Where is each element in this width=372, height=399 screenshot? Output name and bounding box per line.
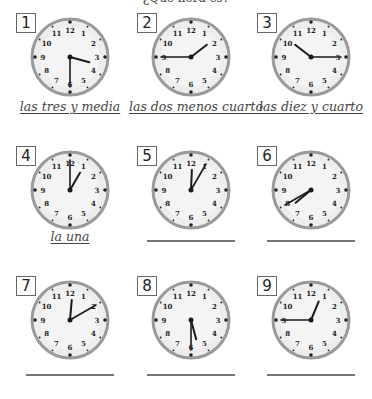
svg-text:10: 10 xyxy=(42,39,52,48)
svg-text:4: 4 xyxy=(332,66,337,75)
svg-text:2: 2 xyxy=(91,39,96,48)
svg-text:1: 1 xyxy=(81,162,86,171)
svg-text:4: 4 xyxy=(332,199,337,208)
svg-text:2: 2 xyxy=(212,302,217,311)
svg-text:2: 2 xyxy=(91,172,96,181)
svg-text:12: 12 xyxy=(65,289,75,298)
answer-text: la una xyxy=(8,229,132,244)
svg-text:10: 10 xyxy=(163,302,173,311)
svg-text:7: 7 xyxy=(295,209,300,218)
svg-text:12: 12 xyxy=(306,289,316,298)
answer-blank-line[interactable] xyxy=(147,240,235,242)
svg-text:8: 8 xyxy=(285,329,290,338)
svg-text:9: 9 xyxy=(41,316,46,325)
svg-text:6: 6 xyxy=(68,343,73,352)
svg-text:11: 11 xyxy=(52,162,62,171)
svg-text:3: 3 xyxy=(95,316,100,325)
svg-text:6: 6 xyxy=(309,343,314,352)
svg-text:10: 10 xyxy=(283,172,293,181)
clock-face-icon: 121234567891011 xyxy=(150,279,232,361)
svg-text:4: 4 xyxy=(212,199,217,208)
svg-text:8: 8 xyxy=(44,199,49,208)
clock-face-icon: 121234567891011 xyxy=(150,149,232,231)
svg-text:12: 12 xyxy=(65,26,75,35)
svg-text:4: 4 xyxy=(91,66,96,75)
worksheet-title: ¿Qué hora es? xyxy=(0,0,372,5)
svg-text:10: 10 xyxy=(283,39,293,48)
svg-text:7: 7 xyxy=(54,209,59,218)
svg-text:10: 10 xyxy=(42,172,52,181)
svg-text:9: 9 xyxy=(162,186,167,195)
svg-text:5: 5 xyxy=(202,339,207,348)
svg-text:10: 10 xyxy=(42,302,52,311)
svg-text:12: 12 xyxy=(306,26,316,35)
svg-text:5: 5 xyxy=(81,339,86,348)
svg-text:8: 8 xyxy=(165,66,170,75)
svg-text:11: 11 xyxy=(293,162,303,171)
svg-text:7: 7 xyxy=(175,76,180,85)
svg-text:5: 5 xyxy=(322,339,327,348)
svg-text:7: 7 xyxy=(175,339,180,348)
answer-blank-line[interactable] xyxy=(267,374,355,376)
answer-text: las diez y cuarto xyxy=(249,99,372,114)
svg-text:7: 7 xyxy=(295,76,300,85)
svg-text:7: 7 xyxy=(175,209,180,218)
svg-text:7: 7 xyxy=(54,339,59,348)
svg-text:1: 1 xyxy=(81,292,86,301)
svg-text:9: 9 xyxy=(41,186,46,195)
svg-text:12: 12 xyxy=(186,289,196,298)
svg-text:4: 4 xyxy=(212,329,217,338)
svg-text:10: 10 xyxy=(163,39,173,48)
svg-text:4: 4 xyxy=(212,66,217,75)
svg-text:9: 9 xyxy=(41,53,46,62)
svg-text:6: 6 xyxy=(309,213,314,222)
answer-blank-line[interactable] xyxy=(267,240,355,242)
svg-text:3: 3 xyxy=(336,186,341,195)
svg-text:1: 1 xyxy=(202,29,207,38)
svg-text:1: 1 xyxy=(81,29,86,38)
svg-text:3: 3 xyxy=(216,53,221,62)
clock-face-icon: 121234567891011 xyxy=(270,279,352,361)
answer-text: las tres y media xyxy=(8,99,132,114)
svg-text:8: 8 xyxy=(165,199,170,208)
svg-text:10: 10 xyxy=(283,302,293,311)
answer-text: las dos menos cuarto xyxy=(129,99,253,114)
svg-text:6: 6 xyxy=(68,213,73,222)
svg-text:5: 5 xyxy=(81,209,86,218)
svg-text:12: 12 xyxy=(186,159,196,168)
svg-text:12: 12 xyxy=(186,26,196,35)
svg-text:10: 10 xyxy=(163,172,173,181)
svg-text:3: 3 xyxy=(95,53,100,62)
svg-text:11: 11 xyxy=(52,29,62,38)
clock-face-icon: 121234567891011 xyxy=(29,16,111,98)
svg-text:2: 2 xyxy=(212,172,217,181)
svg-text:6: 6 xyxy=(309,80,314,89)
clock-face-icon: 121234567891011 xyxy=(270,149,352,231)
svg-text:11: 11 xyxy=(293,292,303,301)
svg-text:2: 2 xyxy=(332,39,337,48)
svg-text:5: 5 xyxy=(202,76,207,85)
svg-text:2: 2 xyxy=(212,39,217,48)
svg-text:1: 1 xyxy=(322,162,327,171)
clock-face-icon: 121234567891011 xyxy=(150,16,232,98)
svg-text:8: 8 xyxy=(44,66,49,75)
svg-text:2: 2 xyxy=(332,302,337,311)
svg-text:5: 5 xyxy=(322,209,327,218)
svg-text:9: 9 xyxy=(282,186,287,195)
svg-text:5: 5 xyxy=(202,209,207,218)
svg-text:5: 5 xyxy=(81,76,86,85)
clock-face-icon: 121234567891011 xyxy=(29,149,111,231)
clock-face-icon: 121234567891011 xyxy=(29,279,111,361)
clock-face-icon: 121234567891011 xyxy=(270,16,352,98)
answer-blank-line[interactable] xyxy=(26,374,114,376)
svg-text:11: 11 xyxy=(173,29,183,38)
svg-text:12: 12 xyxy=(306,159,316,168)
svg-text:3: 3 xyxy=(336,316,341,325)
svg-text:11: 11 xyxy=(52,292,62,301)
svg-text:4: 4 xyxy=(332,329,337,338)
answer-blank-line[interactable] xyxy=(147,374,235,376)
svg-text:8: 8 xyxy=(165,329,170,338)
svg-text:1: 1 xyxy=(322,29,327,38)
svg-text:11: 11 xyxy=(173,292,183,301)
svg-text:11: 11 xyxy=(173,162,183,171)
